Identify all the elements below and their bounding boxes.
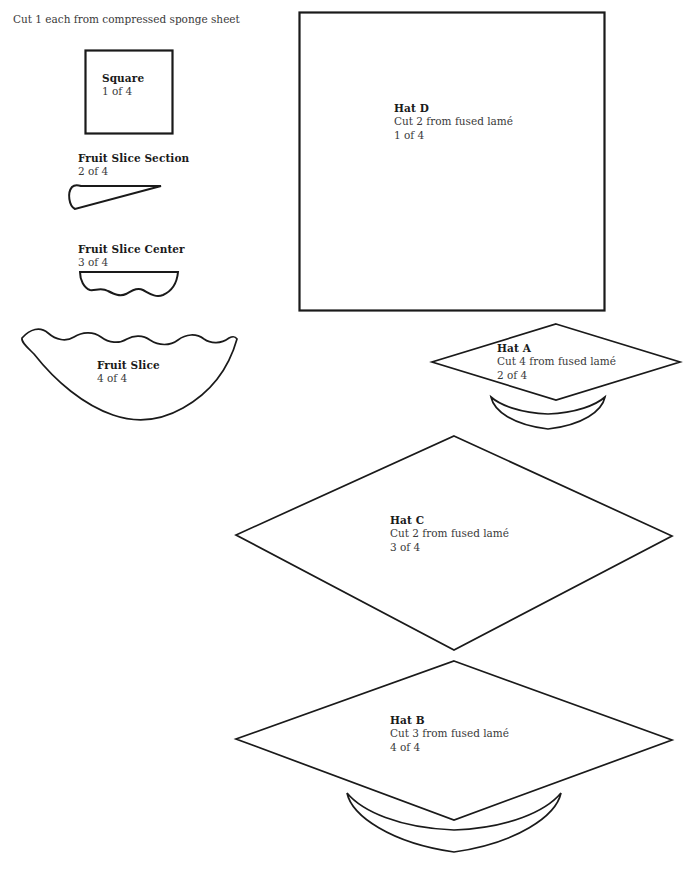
- piece-title-hat-a: Hat A: [497, 342, 616, 355]
- shape-hat-d: [300, 13, 605, 311]
- piece-cut-hat-a: Cut 4 from fused lamé: [497, 355, 616, 368]
- piece-cut-hat-c: Cut 2 from fused lamé: [390, 527, 509, 540]
- piece-title-square: Square: [102, 72, 144, 85]
- piece-index-hat-d: 1 of 4: [394, 129, 513, 142]
- header-instruction-note: Cut 1 each from compressed sponge sheet: [13, 13, 240, 25]
- piece-index-fruit-slice: 4 of 4: [97, 372, 160, 385]
- piece-index-hat-b: 4 of 4: [390, 741, 509, 754]
- piece-label-hat-b: Hat B Cut 3 from fused lamé 4 of 4: [390, 714, 509, 754]
- piece-index-fruit-slice-center: 3 of 4: [78, 256, 185, 269]
- piece-label-fruit-slice-center: Fruit Slice Center 3 of 4: [78, 243, 185, 270]
- piece-label-hat-d: Hat D Cut 2 from fused lamé 1 of 4: [394, 102, 513, 142]
- shape-fruit-slice-section: [69, 185, 161, 209]
- piece-label-fruit-slice: Fruit Slice 4 of 4: [97, 359, 160, 386]
- piece-title-hat-d: Hat D: [394, 102, 513, 115]
- piece-index-square: 1 of 4: [102, 85, 144, 98]
- pattern-sheet: Cut 1 each from compressed sponge sheet …: [0, 0, 685, 876]
- shape-fruit-slice-center: [80, 272, 178, 296]
- piece-label-hat-c: Hat C Cut 2 from fused lamé 3 of 4: [390, 514, 509, 554]
- piece-index-hat-c: 3 of 4: [390, 541, 509, 554]
- piece-index-fruit-slice-section: 2 of 4: [78, 165, 189, 178]
- piece-index-hat-a: 2 of 4: [497, 369, 616, 382]
- piece-title-fruit-slice-section: Fruit Slice Section: [78, 152, 189, 165]
- piece-cut-hat-b: Cut 3 from fused lamé: [390, 727, 509, 740]
- piece-title-fruit-slice: Fruit Slice: [97, 359, 160, 372]
- pattern-shapes-layer: [0, 0, 685, 876]
- piece-title-hat-c: Hat C: [390, 514, 509, 527]
- piece-label-hat-a: Hat A Cut 4 from fused lamé 2 of 4: [497, 342, 616, 382]
- piece-label-fruit-slice-section: Fruit Slice Section 2 of 4: [78, 152, 189, 179]
- piece-cut-hat-d: Cut 2 from fused lamé: [394, 115, 513, 128]
- piece-title-hat-b: Hat B: [390, 714, 509, 727]
- piece-title-fruit-slice-center: Fruit Slice Center: [78, 243, 185, 256]
- piece-label-square: Square 1 of 4: [102, 72, 144, 99]
- shape-hat-a-brim: [491, 397, 605, 429]
